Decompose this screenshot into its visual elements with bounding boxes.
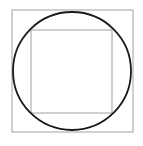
inner-square [31,30,112,113]
geometry-diagram [0,0,143,146]
